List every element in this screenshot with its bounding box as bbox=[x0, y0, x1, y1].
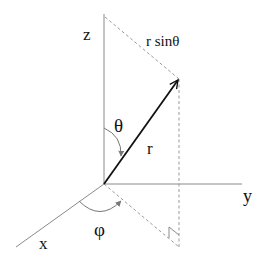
phi-label: φ bbox=[94, 219, 105, 240]
projection-line bbox=[104, 184, 179, 247]
r-sin-theta-label: r sinθ bbox=[146, 33, 179, 49]
theta-label: θ bbox=[114, 115, 123, 136]
spherical-coordinates-diagram: z r sinθ θ r y φ x bbox=[0, 0, 267, 264]
y-axis-label: y bbox=[243, 186, 252, 206]
r-label: r bbox=[147, 139, 153, 158]
right-angle-marker bbox=[169, 227, 179, 238]
z-axis-label: z bbox=[83, 25, 91, 44]
x-axis-label: x bbox=[39, 234, 48, 253]
x-axis bbox=[16, 184, 104, 247]
phi-arc bbox=[79, 201, 121, 212]
